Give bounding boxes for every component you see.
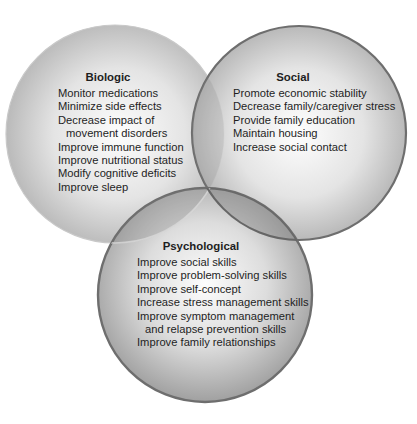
list-item: Minimize side effects: [58, 100, 188, 113]
social-block: Social Promote economic stability Decrea…: [233, 70, 393, 154]
biologic-heading: Biologic: [58, 70, 158, 84]
social-heading: Social: [233, 70, 353, 84]
list-item: Monitor medications: [58, 87, 188, 100]
list-item: Increase social contact: [233, 141, 393, 154]
list-item: Provide family education: [233, 114, 393, 127]
biologic-block: Biologic Monitor medications Minimize si…: [58, 70, 188, 194]
list-item: Improve problem-solving skills: [137, 269, 307, 282]
list-item: Improve symptom management: [137, 310, 307, 323]
psychological-list: Improve social skills Improve problem-so…: [137, 256, 307, 350]
list-item: Improve self-concept: [137, 283, 307, 296]
list-item: Promote economic stability: [233, 87, 393, 100]
list-item: Maintain housing: [233, 127, 393, 140]
list-item: Modify cognitive deficits: [58, 167, 188, 180]
list-item: and relapse prevention skills: [137, 323, 307, 336]
list-item: Improve immune function: [58, 141, 188, 154]
list-item: Decrease impact of: [58, 114, 188, 127]
psychological-heading: Psychological: [137, 239, 265, 253]
list-item: Decrease family/caregiver stress: [233, 100, 393, 113]
list-item: movement disorders: [58, 127, 188, 140]
biologic-list: Monitor medications Minimize side effect…: [58, 87, 188, 194]
list-item: Improve nutritional status: [58, 154, 188, 167]
venn-circles: [0, 0, 417, 424]
list-item: Increase stress management skills: [137, 296, 307, 309]
list-item: Improve sleep: [58, 181, 188, 194]
venn-diagram: Biologic Monitor medications Minimize si…: [0, 0, 417, 424]
list-item: Improve family relationships: [137, 336, 307, 349]
social-list: Promote economic stability Decrease fami…: [233, 87, 393, 154]
list-item: Improve social skills: [137, 256, 307, 269]
psychological-block: Psychological Improve social skills Impr…: [137, 239, 307, 350]
